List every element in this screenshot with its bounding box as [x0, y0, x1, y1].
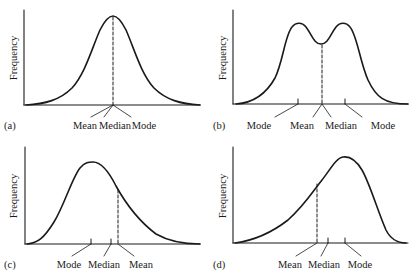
y-axis-label: Frequency	[217, 173, 228, 218]
label-mode: Mode	[57, 259, 82, 270]
panel-b: Frequency (b) Mode Mean Median Mode	[213, 10, 408, 132]
leader-mode-left	[275, 104, 298, 117]
leader-mode	[345, 243, 361, 256]
label-median: Median	[308, 259, 341, 270]
label-mode-right: Mode	[371, 120, 396, 131]
y-axis-label: Frequency	[8, 35, 19, 80]
panel-d: Frequency (d) Mean Median Mode	[213, 147, 408, 271]
leader-mode	[113, 105, 131, 117]
distribution-figure: Frequency (a) Mean Median Mode Frequency…	[0, 0, 419, 279]
label-mean: Mean	[129, 259, 154, 270]
panel-letter: (d)	[213, 259, 226, 271]
leader-median	[321, 243, 328, 256]
distribution-curve	[235, 157, 406, 243]
label-median: Median	[88, 259, 121, 270]
label-median: Median	[325, 120, 358, 131]
panel-a: Frequency (a) Mean Median Mode	[4, 10, 200, 132]
label-mode: Mode	[348, 259, 373, 270]
panel-letter: (a)	[4, 120, 16, 132]
leader-mean	[296, 243, 317, 256]
distribution-curve	[27, 162, 200, 244]
label-mean: Mean	[290, 120, 315, 131]
label-mode: Mode	[132, 120, 157, 131]
panel-letter: (b)	[213, 120, 226, 132]
y-axis-label: Frequency	[8, 173, 19, 218]
leader-mode-right	[345, 104, 362, 117]
leader-mode	[72, 244, 91, 256]
leader-mean	[118, 244, 134, 256]
label-mode-left: Mode	[247, 120, 272, 131]
leader-mean	[313, 104, 322, 117]
leader-median	[322, 104, 331, 117]
label-mean: Mean	[73, 120, 98, 131]
leader-median	[104, 244, 111, 256]
panel-letter: (c)	[4, 259, 16, 271]
label-mean: Mean	[278, 259, 303, 270]
leader-median	[104, 105, 113, 117]
y-axis-label: Frequency	[217, 35, 228, 80]
leader-mean	[91, 105, 113, 117]
panel-c: Frequency (c) Mode Median Mean	[4, 147, 200, 271]
label-median: Median	[99, 120, 132, 131]
